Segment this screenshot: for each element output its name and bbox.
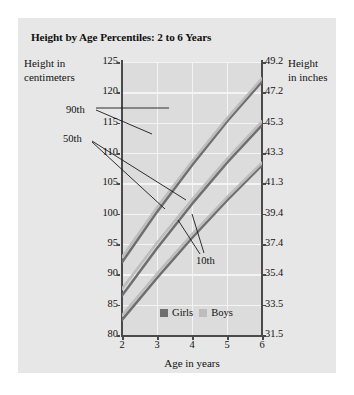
annotation-leader-lines — [0, 0, 354, 395]
y-tick-mark-right — [263, 62, 266, 64]
y-tick-mark-right — [263, 123, 266, 125]
y-tick-mark-right — [263, 274, 266, 276]
y-tick-mark-left — [117, 153, 120, 155]
y-tick-left-90: 90 — [108, 267, 118, 278]
y-tick-mark-right — [263, 153, 266, 155]
y-tick-mark-left — [117, 92, 120, 94]
x-tick-3: 3 — [147, 339, 167, 350]
x-tick-mark — [192, 337, 194, 340]
legend-label-boys: Boys — [211, 307, 233, 318]
y-tick-right-45.3: 45.3 — [265, 116, 283, 127]
x-tick-5: 5 — [217, 339, 237, 350]
y-tick-right-35.4: 35.4 — [265, 267, 283, 278]
y-tick-left-105: 105 — [102, 176, 118, 187]
y-tick-left-120: 120 — [102, 85, 118, 96]
y-tick-right-41.3: 41.3 — [265, 176, 283, 187]
legend-swatch-boys — [199, 309, 207, 317]
y-tick-left-115: 115 — [103, 116, 118, 127]
y-tick-left-125: 125 — [102, 55, 118, 66]
y-tick-left-95: 95 — [108, 237, 118, 248]
x-tick-mark — [157, 337, 159, 340]
x-tick-4: 4 — [182, 339, 202, 350]
y-tick-mark-left — [117, 305, 120, 307]
y-tick-right-47.2: 47.2 — [265, 85, 283, 96]
y-tick-mark-right — [263, 244, 266, 246]
chart-legend: Girls Boys — [160, 307, 233, 318]
y-tick-right-49.2: 49.2 — [265, 55, 283, 66]
y-tick-right-33.5: 33.5 — [265, 298, 283, 309]
annotation-90th: 90th — [66, 104, 85, 115]
x-tick-2: 2 — [112, 339, 132, 350]
legend-item-girls: Girls — [160, 307, 193, 318]
y-tick-mark-left — [117, 183, 120, 185]
legend-item-boys: Boys — [199, 307, 233, 318]
legend-swatch-girls — [160, 309, 168, 317]
y-tick-left-85: 85 — [108, 298, 118, 309]
annotation-50th: 50th — [63, 133, 82, 144]
x-axis-title: Age in years — [122, 357, 262, 369]
chart-figure: Height by Age Percentiles: 2 to 6 Years … — [0, 0, 354, 395]
y-tick-mark-right — [263, 214, 266, 216]
leader-10th-b — [192, 214, 204, 253]
y-tick-right-39.4: 39.4 — [265, 207, 283, 218]
y-tick-right-31.5: 31.5 — [265, 328, 283, 339]
x-tick-mark — [122, 337, 124, 340]
legend-label-girls: Girls — [172, 307, 193, 318]
x-tick-mark — [262, 337, 264, 340]
y-tick-right-43.3: 43.3 — [265, 146, 283, 157]
y-axis-right-ticks: 31.533.535.437.439.441.343.345.347.249.2 — [265, 0, 299, 395]
y-axis-left-ticks: 80859095100105110115120125 — [86, 0, 118, 395]
y-tick-mark-left — [117, 123, 120, 125]
y-tick-left-80: 80 — [108, 328, 118, 339]
y-tick-left-110: 110 — [103, 146, 118, 157]
y-tick-mark-right — [263, 305, 266, 307]
y-tick-right-37.4: 37.4 — [265, 237, 283, 248]
y-tick-mark-left — [117, 274, 120, 276]
y-tick-left-100: 100 — [102, 207, 118, 218]
y-tick-mark-left — [117, 244, 120, 246]
annotation-10th: 10th — [196, 255, 215, 266]
y-tick-mark-left — [117, 335, 120, 337]
y-tick-mark-left — [117, 62, 120, 64]
x-tick-6: 6 — [252, 339, 272, 350]
y-tick-mark-right — [263, 335, 266, 337]
y-tick-mark-right — [263, 183, 266, 185]
y-tick-mark-right — [263, 92, 266, 94]
leader-10th-a — [178, 220, 200, 254]
x-tick-mark — [227, 337, 229, 340]
y-tick-mark-left — [117, 214, 120, 216]
